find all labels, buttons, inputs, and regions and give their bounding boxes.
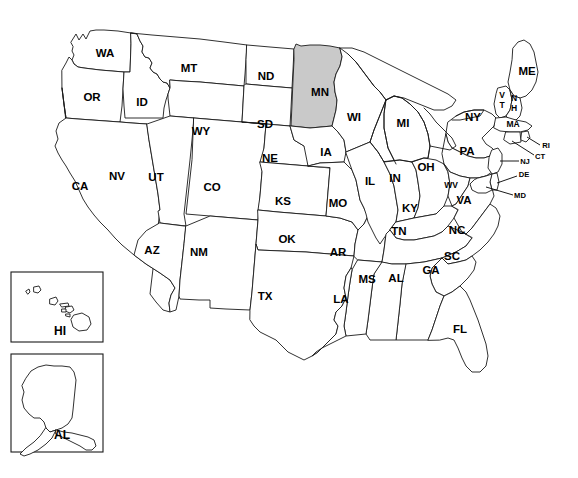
state-RI[interactable] [521, 131, 530, 142]
label-VT-line2: T [499, 100, 505, 110]
label-CO: CO [203, 181, 220, 193]
label-IL: IL [365, 175, 375, 187]
hawaii-island-lanai [62, 309, 66, 312]
label-NM: NM [190, 246, 208, 258]
leader-line-CT [512, 141, 534, 155]
label-LA: LA [333, 293, 348, 305]
label-AL: AL [388, 272, 403, 284]
label-ID: ID [136, 96, 148, 108]
label-MT: MT [181, 62, 198, 74]
label-MI: MI [397, 117, 410, 129]
state-CT[interactable] [504, 132, 521, 144]
label-NJ: NJ [520, 157, 530, 166]
hawaii-inset-label: HI [54, 324, 66, 338]
us-state-map: WA OR ID MT ND MN WI MI ME NY SD WY IA N… [0, 0, 578, 478]
label-NH-line1: N [511, 93, 517, 103]
label-GA: GA [422, 264, 439, 276]
label-PA: PA [459, 145, 474, 157]
label-MS: MS [358, 273, 376, 285]
label-KY: KY [402, 202, 418, 214]
hawaii-island-kahoolawe [66, 314, 70, 317]
label-IA: IA [320, 146, 332, 158]
leader-line-RI [527, 137, 540, 145]
label-FL: FL [453, 323, 467, 335]
label-WA: WA [96, 47, 115, 59]
label-IN: IN [389, 172, 401, 184]
label-UT: UT [148, 171, 163, 183]
label-CT: CT [535, 152, 545, 161]
hawaii-inset[interactable]: HI [11, 272, 103, 342]
state-NM[interactable] [179, 216, 258, 310]
label-MN: MN [311, 86, 329, 98]
label-WI: WI [347, 111, 361, 123]
label-NY: NY [465, 111, 481, 123]
alaska-inset[interactable]: AL [11, 354, 103, 456]
label-WV: WV [444, 180, 458, 190]
label-NE: NE [262, 152, 278, 164]
label-ND: ND [258, 70, 275, 82]
label-DE: DE [519, 170, 530, 179]
label-WY: WY [192, 125, 211, 137]
label-CA: CA [72, 180, 89, 192]
label-VT-line1: V [499, 90, 505, 100]
label-OH: OH [417, 161, 434, 173]
label-NH-line2: H [511, 103, 517, 113]
label-MO: MO [329, 197, 348, 209]
state-WY[interactable] [168, 80, 244, 122]
leader-line-DE [497, 176, 517, 183]
label-SD: SD [257, 118, 273, 130]
label-OR: OR [83, 91, 101, 103]
state-KS[interactable] [258, 162, 330, 216]
label-VA: VA [456, 194, 471, 206]
label-TX: TX [258, 290, 273, 302]
label-MD: MD [514, 191, 526, 200]
alaska-inset-label: AL [54, 428, 70, 442]
us-map-svg: WA OR ID MT ND MN WI MI ME NY SD WY IA N… [0, 0, 578, 478]
label-AZ: AZ [144, 244, 159, 256]
label-SC: SC [444, 250, 460, 262]
label-NC: NC [449, 224, 466, 236]
label-AR: AR [330, 246, 347, 258]
label-MA: MA [506, 119, 519, 129]
label-NV: NV [109, 170, 125, 182]
label-TN: TN [391, 225, 406, 237]
label-OK: OK [278, 233, 296, 245]
label-KS: KS [275, 195, 291, 207]
label-ME: ME [518, 65, 536, 77]
label-RI: RI [542, 141, 550, 150]
